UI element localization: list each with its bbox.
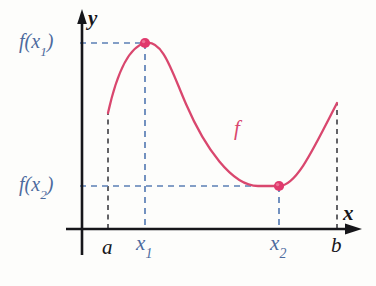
y-tick-label-fx1-subscript: 1 [40,44,47,59]
curve-label-f: f [234,118,240,139]
local-maximum-point-highlight [142,40,145,43]
x-tick-label-x1-subscript: 1 [146,246,153,261]
local-minimum-point [274,181,284,191]
y-tick-label-fx2-suffix: ) [47,173,54,195]
x-tick-label-x1-base: x [136,231,145,255]
y-tick-label-fx2: f(x2) [19,174,53,198]
x-tick-label-a: a [102,237,113,258]
local-maximum-point [140,38,150,48]
y-axis-label: y [88,8,97,29]
graph-canvas [0,0,376,286]
y-axis-arrowhead [77,9,87,24]
axes [66,9,362,255]
function-graph-figure: y x f(x1) f(x2) a x1 x2 b f [0,0,376,286]
y-tick-label-fx1-suffix: ) [47,30,54,52]
x-axis-arrowhead [345,224,362,235]
x-tick-label-x1: x1 [136,233,152,258]
function-curve [108,43,337,186]
x-tick-label-x2-base: x [270,231,279,255]
y-tick-label-fx1-prefix: f(x [19,30,40,52]
x-axis-label: x [343,203,354,224]
x-tick-label-x2-subscript: 2 [280,246,287,261]
extrema-markers [140,38,284,191]
y-tick-label-fx1: f(x1) [19,31,53,55]
y-tick-label-fx2-prefix: f(x [19,173,40,195]
local-minimum-point-highlight [276,183,279,186]
x-tick-label-b: b [331,235,342,256]
extrema-guide-lines [80,43,279,230]
y-tick-label-fx2-subscript: 2 [40,187,47,202]
x-tick-label-x2: x2 [270,233,286,258]
